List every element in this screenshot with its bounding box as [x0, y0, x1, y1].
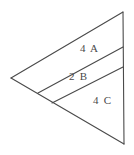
region-label-c: 4 C	[93, 95, 112, 106]
geometry-figure: 4 A 2 B 4 C	[0, 0, 134, 155]
triangle-upper-edge	[11, 12, 123, 78]
triangle-right-edge	[123, 12, 124, 144]
region-label-b: 2 B	[69, 71, 88, 82]
triangle-lower-edge	[11, 78, 124, 144]
triangle-diagram-svg	[0, 0, 134, 155]
region-label-a: 4 A	[80, 43, 99, 54]
